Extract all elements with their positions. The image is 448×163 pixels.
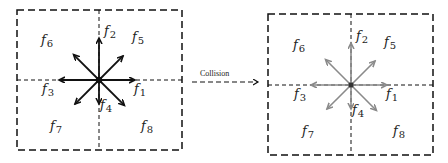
vector-arrow-f7 — [75, 80, 99, 104]
node-center — [348, 82, 354, 88]
collision-diagram: f1f2f3f4f5f6f7f8 Collision f1f2f3f4f5f6f… — [0, 0, 448, 163]
velocity-vectors — [59, 38, 135, 105]
velocity-vectors — [311, 43, 387, 110]
panel-after: f1f2f3f4f5f6f7f8 — [268, 14, 433, 155]
panel-before: f1f2f3f4f5f6f7f8 — [17, 10, 182, 150]
vector-label-f7: f7 — [301, 123, 314, 140]
vector-label-f3: f3 — [293, 86, 306, 103]
vector-label-f8: f8 — [392, 123, 405, 140]
vector-label-f5: f5 — [383, 34, 396, 51]
vector-arrow-f6 — [326, 60, 351, 85]
vector-label-f6: f6 — [292, 37, 305, 54]
vector-label-f5: f5 — [131, 29, 144, 46]
collision-label: Collision — [200, 69, 229, 78]
node-center — [96, 77, 102, 83]
vector-arrow-f7 — [327, 85, 351, 109]
vector-label-f2: f2 — [103, 23, 116, 40]
vector-label-f1: f1 — [385, 86, 398, 103]
vector-arrow-f5 — [99, 56, 123, 80]
collision-transition: Collision — [192, 69, 258, 82]
vector-arrow-f6 — [74, 55, 99, 80]
vector-label-f3: f3 — [41, 81, 54, 98]
vector-label-f4: f4 — [99, 97, 112, 114]
vector-label-f6: f6 — [40, 32, 53, 49]
vector-label-f1: f1 — [133, 81, 146, 98]
vector-label-f8: f8 — [140, 118, 153, 135]
vector-label-f4: f4 — [351, 102, 364, 119]
vector-label-f2: f2 — [355, 28, 368, 45]
vector-label-f7: f7 — [49, 118, 62, 135]
vector-arrow-f5 — [351, 61, 375, 85]
